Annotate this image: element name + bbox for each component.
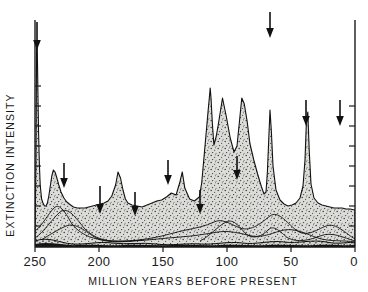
extinction-event-arrows (33, 12, 344, 216)
x-tick-label-0: 0 (350, 254, 358, 269)
arrow-marker-end-triassic (60, 163, 68, 188)
x-tick-label-100: 100 (216, 254, 239, 269)
x-tick-label-250: 250 (24, 254, 47, 269)
x-tick-label-200: 200 (88, 254, 111, 269)
arrow-marker-middle-miocene (336, 100, 344, 126)
arrow-marker-end-cretaceous (266, 12, 274, 38)
extinction-area-path (35, 41, 355, 247)
x-tick-label-150: 150 (152, 254, 175, 269)
extinction-intensity-figure: 250 200 150 100 50 0 MILLION YEARS BEFOR… (0, 0, 368, 292)
chart-canvas: 250 200 150 100 50 0 MILLION YEARS BEFOR… (0, 0, 368, 292)
x-tick-label-50: 50 (283, 254, 298, 269)
plot-area: 250 200 150 100 50 0 MILLION YEARS BEFOR… (4, 12, 358, 287)
extinction-curve-fill (35, 41, 355, 247)
x-axis-title: MILLION YEARS BEFORE PRESENT (88, 275, 298, 287)
y-axis-title: EXTINCTION INTENSITY (4, 93, 16, 236)
arrow-marker-end-jurassic (164, 160, 172, 185)
